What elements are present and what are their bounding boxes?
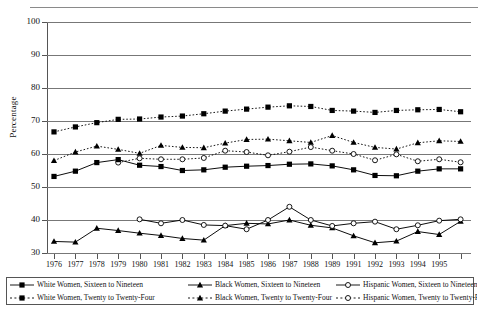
data-point-0-1 <box>73 124 78 129</box>
x-tick-11 <box>289 254 290 259</box>
data-point-4-11 <box>286 217 292 223</box>
data-point-5-17 <box>415 223 420 228</box>
data-point-5-10 <box>266 218 271 223</box>
x-tick-5 <box>161 254 162 259</box>
legend-marker-3 <box>19 295 24 300</box>
data-point-0-14 <box>351 109 356 114</box>
data-point-0-17 <box>415 107 420 112</box>
data-point-5-13 <box>330 223 335 228</box>
data-point-5-11 <box>287 204 292 209</box>
x-tick-10 <box>268 254 269 259</box>
x-tick-label-1995: 1995 <box>424 260 454 269</box>
legend-label-0: White Women, Sixteen to Nineteen <box>37 281 143 289</box>
data-point-1-5 <box>158 142 164 148</box>
y-tick-label-100: 100 <box>14 17 40 26</box>
data-point-0-3 <box>116 117 121 122</box>
x-tick-19 <box>461 254 462 259</box>
data-point-4-17 <box>415 228 421 234</box>
legend-key-hispanic-20-24 <box>335 293 361 303</box>
data-point-1-16 <box>393 146 399 152</box>
data-point-1-18 <box>436 138 442 144</box>
data-point-1-0 <box>51 157 57 163</box>
series-line-1 <box>54 136 461 161</box>
data-point-0-12 <box>308 104 313 109</box>
data-point-3-8 <box>223 165 228 170</box>
data-point-3-10 <box>265 163 270 168</box>
data-point-2-17 <box>415 159 420 164</box>
data-point-3-4 <box>137 163 142 168</box>
data-point-4-2 <box>94 225 100 231</box>
series-line-4 <box>54 220 461 243</box>
legend-key-white-20-24 <box>9 293 35 303</box>
x-tick-17 <box>418 254 419 259</box>
data-point-1-3 <box>115 146 121 152</box>
y-tick-label-50: 50 <box>14 182 40 191</box>
series-line-0 <box>54 106 461 132</box>
x-tick-12 <box>311 254 312 259</box>
legend-label-4: Black Women, Twenty to Twenty-Four <box>215 294 332 302</box>
data-point-0-19 <box>458 109 463 114</box>
data-point-2-13 <box>330 148 335 153</box>
data-point-3-15 <box>372 173 377 178</box>
data-point-1-8 <box>222 140 228 146</box>
data-point-3-11 <box>287 162 292 167</box>
data-point-2-9 <box>244 150 249 155</box>
data-point-3-0 <box>51 174 56 179</box>
y-tick-label-40: 40 <box>14 215 40 224</box>
plot-area: 30405060708090100 <box>47 22 471 253</box>
data-point-3-12 <box>308 161 313 166</box>
data-point-2-10 <box>266 153 271 158</box>
legend-key-white-16-19 <box>9 280 35 290</box>
x-tick-3 <box>118 254 119 259</box>
data-point-3-13 <box>330 163 335 168</box>
data-point-1-2 <box>94 143 100 149</box>
legend-label-2: Hispanic Women, Sixteen to Nineteen <box>363 281 477 289</box>
data-point-3-3 <box>116 157 121 162</box>
data-point-3-14 <box>351 167 356 172</box>
data-point-5-8 <box>223 223 228 228</box>
series-0 <box>51 103 463 134</box>
series-layer <box>47 22 471 254</box>
data-point-5-14 <box>351 221 356 226</box>
legend-label-5: Hispanic Women, Twenty to Twenty-Four <box>363 294 477 302</box>
data-point-5-6 <box>180 218 185 223</box>
data-point-2-5 <box>159 157 164 162</box>
data-point-3-16 <box>394 173 399 178</box>
data-point-0-16 <box>394 108 399 113</box>
x-tick-1 <box>75 254 76 259</box>
x-tick-6 <box>182 254 183 259</box>
legend-key-hispanic-16-19 <box>335 280 361 290</box>
data-point-1-7 <box>201 145 207 151</box>
legend-entry-1: Black Women, Sixteen to Nineteen <box>187 278 335 291</box>
series-1 <box>51 132 464 163</box>
data-point-0-9 <box>244 107 249 112</box>
y-tick-label-80: 80 <box>14 83 40 92</box>
x-tick-8 <box>225 254 226 259</box>
data-point-2-12 <box>308 145 313 150</box>
legend-entry-4: Black Women, Twenty to Twenty-Four <box>187 291 335 304</box>
data-point-0-18 <box>437 107 442 112</box>
legend-marker-2 <box>346 282 351 287</box>
legend-entry-5: Hispanic Women, Twenty to Twenty-Four <box>335 291 477 304</box>
data-point-0-13 <box>330 108 335 113</box>
data-point-3-7 <box>201 167 206 172</box>
x-tick-7 <box>204 254 205 259</box>
legend-key-black-16-19 <box>187 280 213 290</box>
series-5 <box>137 204 463 231</box>
legend-marker-0 <box>19 282 24 287</box>
data-point-5-12 <box>308 218 313 223</box>
y-tick-label-30: 30 <box>14 248 40 257</box>
data-point-0-6 <box>180 113 185 118</box>
page-top-rule <box>30 7 478 8</box>
chart-page: Percentage 30405060708090100 19761977197… <box>0 0 480 309</box>
data-point-0-2 <box>94 120 99 125</box>
data-point-5-5 <box>159 221 164 226</box>
data-point-2-4 <box>137 156 142 161</box>
data-point-2-15 <box>373 158 378 163</box>
y-tick-label-60: 60 <box>14 149 40 158</box>
x-tick-18 <box>439 254 440 259</box>
data-point-5-18 <box>437 218 442 223</box>
data-point-2-6 <box>180 157 185 162</box>
data-point-2-19 <box>458 160 463 165</box>
legend-key-black-20-24 <box>187 293 213 303</box>
